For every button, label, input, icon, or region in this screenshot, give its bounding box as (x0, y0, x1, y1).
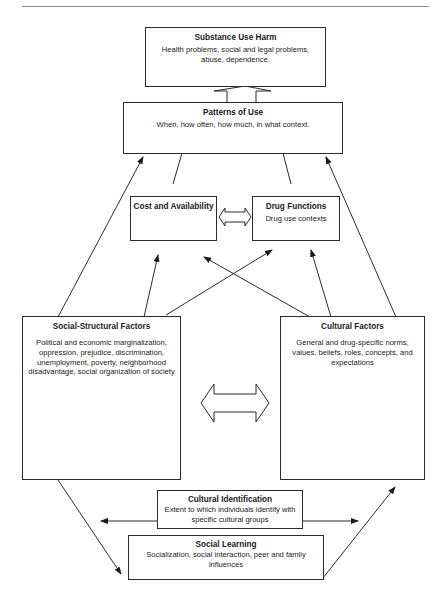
block-arrow-up (214, 86, 271, 103)
arrow-learning-to-cultural (323, 487, 395, 578)
arrow-social-to-learning (58, 480, 121, 574)
social-learning-desc: Socialization, social interaction, peer … (133, 550, 319, 570)
arrow-social-to-drug (166, 250, 272, 315)
social-structural-title: Social-Structural Factors (23, 322, 180, 331)
bidirectional-block-arrow-middle (201, 384, 269, 422)
box-cost-availability: Cost and Availability (130, 196, 217, 241)
cost-availability-title: Cost and Availability (131, 202, 216, 211)
box-drug-functions: Drug Functions Drug use contexts (252, 196, 340, 241)
patterns-of-use-title: Patterns of Use (124, 108, 342, 117)
arrow-social-to-cost (144, 255, 158, 317)
substance-use-harm-desc: Health problems, social and legal proble… (150, 45, 321, 65)
box-cultural-factors: Cultural Factors General and drug-specif… (280, 316, 425, 480)
arrow-cultural-to-cost (204, 257, 310, 317)
line-cost-to-patterns (173, 153, 182, 184)
substance-use-harm-title: Substance Use Harm (146, 33, 325, 42)
arrow-cultural-to-drug (311, 250, 331, 317)
social-learning-title: Social Learning (129, 540, 323, 549)
line-drug-to-patterns (283, 153, 291, 184)
box-cultural-identification: Cultural Identification Extent to which … (157, 490, 303, 529)
cultural-identification-title: Cultural Identification (158, 495, 302, 504)
box-patterns-of-use: Patterns of Use When, how often, how muc… (123, 102, 343, 154)
cultural-factors-desc: General and drug-specific norms, values,… (285, 338, 420, 367)
social-structural-desc: Political and economic marginalization, … (27, 338, 176, 377)
box-substance-use-harm: Substance Use Harm Health problems, soci… (145, 27, 326, 87)
cultural-identification-desc: Extent to which individuals identify wit… (162, 505, 298, 525)
box-social-structural: Social-Structural Factors Political and … (22, 316, 181, 480)
box-social-learning: Social Learning Socialization, social in… (128, 535, 324, 580)
cultural-factors-title: Cultural Factors (281, 322, 424, 331)
drug-functions-desc: Drug use contexts (257, 214, 335, 224)
patterns-of-use-desc: When, how often, how much, in what conte… (128, 120, 338, 130)
bidirectional-block-arrow-top (219, 208, 251, 226)
drug-functions-title: Drug Functions (253, 202, 339, 211)
